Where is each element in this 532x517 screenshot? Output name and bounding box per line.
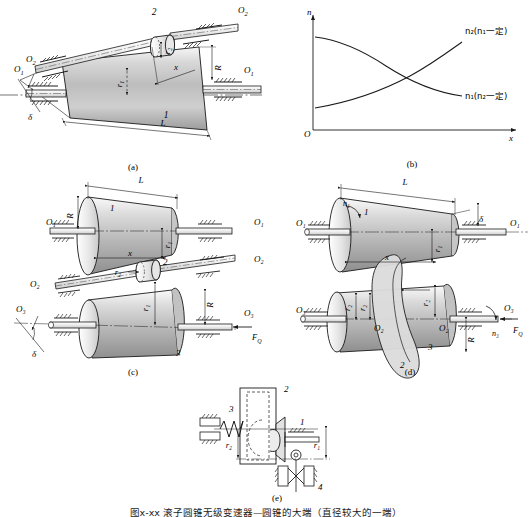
- panel-d-shaft-o3-right: [450, 316, 498, 322]
- panel-d-dim-label-L: L: [401, 177, 407, 187]
- panel-c-dim-label-R-top: R: [65, 213, 75, 220]
- chart-x-axis-label: x: [508, 133, 513, 143]
- panel-c-force-label-fq: FQ: [251, 332, 262, 344]
- panel-c-angle-label-delta: δ: [32, 349, 37, 359]
- panel-c: L 1 R O₁ O₁ x r₁ O₂ O₂ r₂ 2 r₁ R O₃ O₃ F…: [14, 175, 264, 377]
- panel-c-label-o1-left: O₁: [46, 217, 56, 227]
- panel-d-caption: (d): [405, 367, 416, 377]
- panel-e: 2 3 1 4 r₂ r₁ (e): [200, 384, 330, 503]
- panel-c-label-o3-right: O₃: [244, 308, 254, 318]
- panel-b-caption: (b): [407, 159, 418, 169]
- panel-c-angle-delta: [16, 316, 44, 352]
- panel-b-chart: n x O n₂(n₁一定) n₁(n₂一定) (b): [304, 7, 516, 169]
- panel-d: L n₁ 1 O₁ O₁ δ x r₁ O₃ O₃ r₂ r₂ r₂ O₂ O₂…: [296, 177, 528, 378]
- panel-a: 2 1 O2 O2 O1 O1 L x R r1 r2 δ (a): [0, 5, 262, 172]
- panel-e-dim-label-r2: r₂: [226, 440, 232, 450]
- panel-a-shaft-o1-right: [203, 86, 261, 93]
- panel-d-dim-label-r2c: r₂: [420, 300, 430, 306]
- panel-d-label-o2-left: O₂: [374, 323, 384, 333]
- panel-c-dim-label-r1-top: r₁: [162, 242, 172, 248]
- panel-a-label-o2-left: O2: [26, 54, 37, 66]
- panel-a-caption: (a): [128, 162, 138, 172]
- panel-e-label-part-2: 2: [284, 384, 289, 394]
- panel-a-dim-label-L: L: [159, 118, 165, 128]
- panel-e-dim-label-r1: r₁: [314, 440, 320, 450]
- panel-c-shaft-o1-left: [50, 228, 95, 234]
- panel-c-roller-2: [136, 260, 161, 282]
- panel-c-label-part-2: 2: [163, 257, 168, 267]
- chart-annotation-n1: n₁(n₂一定): [465, 91, 507, 101]
- chart-annotation-n2: n₂(n₁一定): [465, 26, 507, 36]
- panel-d-shaft-o1-left: [305, 229, 350, 235]
- panel-c-label-o2-right: O₂: [254, 254, 264, 264]
- panel-d-shaft-o1-right: [456, 229, 506, 235]
- panel-c-label-part-1: 1: [110, 203, 115, 213]
- panel-a-label-o1-left: O1: [14, 64, 24, 76]
- panel-a-label-o1-right: O1: [244, 65, 254, 77]
- panel-d-dim-label-r1: r₁: [432, 246, 442, 252]
- panel-c-dim-label-r1-bottom: r₁: [140, 305, 150, 311]
- panel-d-dim-label-r2a: r₂: [343, 305, 352, 311]
- figure-svg-canvas: 2 1 O2 O2 O1 O1 L x R r1 r2 δ (a) n x O …: [0, 0, 532, 517]
- panel-d-speed-label-n3: n₃: [492, 329, 499, 338]
- panel-d-label-o2-right: O₂: [439, 323, 449, 333]
- panel-a-dim-label-R: R: [213, 65, 223, 72]
- figure-cone-cvt-diagram: 2 1 O2 O2 O1 O1 L x R r1 r2 δ (a) n x O …: [0, 0, 532, 517]
- panel-e-label-part-1: 1: [300, 417, 305, 427]
- panel-d-label-o1-left: O₁: [296, 218, 306, 228]
- panel-d-dim-label-r2b: r₂: [358, 305, 367, 311]
- panel-d-label-o3-right: O₃: [504, 303, 514, 313]
- chart-series-n2-rising: [315, 42, 462, 108]
- panel-d-label-o3-left: O₃: [296, 305, 306, 315]
- panel-d-speed-label-n1: n₁: [343, 199, 350, 208]
- panel-e-label-part-4: 4: [318, 482, 323, 492]
- panel-a-label-part-2: 2: [152, 7, 157, 17]
- panel-c-caption: (c): [128, 367, 138, 377]
- panel-a-label-o2-right: O2: [238, 5, 249, 17]
- panel-d-shaft-o3-left: [301, 316, 346, 322]
- panel-d-label-part-3: 3: [427, 342, 433, 352]
- panel-c-label-part-3: 3: [175, 348, 181, 358]
- panel-c-dim-label-r2: r₂: [115, 267, 121, 277]
- panel-a-dim-label-x: x: [173, 62, 178, 72]
- panel-c-label-o3-left: O₃: [16, 304, 26, 314]
- chart-series-n1-falling: [315, 37, 462, 96]
- panel-c-dim-label-x: x: [127, 248, 132, 258]
- panel-c-dim-label-L: L: [137, 175, 143, 185]
- panel-e-caption: (e): [272, 493, 282, 503]
- panel-e-label-part-3: 3: [228, 404, 234, 414]
- panel-d-dim-label-R: R: [466, 337, 476, 344]
- panel-e-disc-2: [240, 388, 276, 464]
- panel-d-label-part-1: 1: [364, 207, 369, 217]
- chart-y-axis-label: n: [307, 7, 312, 17]
- panel-c-label-o2-left: O₂: [30, 279, 40, 289]
- panel-c-shaft-o1-right: [176, 228, 232, 234]
- panel-e-bearing-1: [288, 428, 314, 432]
- panel-c-dim-label-R-bottom: R: [205, 302, 215, 309]
- panel-d-angle-label-delta: δ: [479, 214, 484, 224]
- panel-a-angle-label-delta: δ: [28, 112, 33, 122]
- figure-caption: 图x-xx 滚子圆锥无级变速器—圆锥的大端（直径较大的一端）: [0, 506, 532, 517]
- chart-origin-label: O: [304, 129, 311, 139]
- panel-c-label-o1-right: O₁: [254, 217, 264, 227]
- panel-c-shaft-o3-left: [48, 322, 96, 328]
- panel-a-cone-1: [20, 47, 207, 130]
- panel-d-force-label-fq: FQ: [512, 325, 523, 337]
- panel-d-dim-label-x: x: [384, 252, 389, 262]
- panel-d-label-o1-right: O₁: [510, 218, 520, 228]
